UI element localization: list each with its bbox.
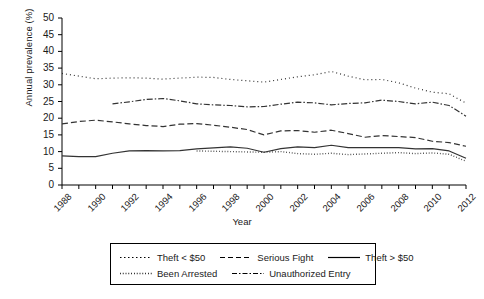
series-line bbox=[113, 98, 467, 116]
legend-key-dotted-fine-icon bbox=[119, 269, 153, 278]
legend-item[interactable]: Theft < $50 bbox=[119, 252, 205, 263]
chart-legend: Theft < $50Serious FightTheft > $50Been … bbox=[110, 243, 376, 285]
legend-key-dashed-icon bbox=[219, 253, 253, 262]
legend-key-dotted-coarse-icon bbox=[119, 253, 153, 262]
legend-key-solid-icon bbox=[327, 253, 361, 262]
legend-label: Serious Fight bbox=[257, 252, 313, 263]
legend-row: Been ArrestedUnauthorized Entry bbox=[119, 265, 367, 281]
legend-row: Theft < $50Serious FightTheft > $50 bbox=[119, 249, 367, 265]
legend-item[interactable]: Serious Fight bbox=[219, 252, 313, 263]
legend-label: Theft < $50 bbox=[157, 252, 205, 263]
legend-item[interactable]: Unauthorized Entry bbox=[231, 268, 350, 279]
legend-label: Unauthorized Entry bbox=[269, 268, 350, 279]
series-line bbox=[62, 120, 466, 146]
chart-figure: Annual prevalence (%) 504540353025201510… bbox=[0, 0, 484, 299]
series-line bbox=[62, 71, 466, 103]
legend-item[interactable]: Been Arrested bbox=[119, 268, 217, 279]
legend-item[interactable]: Theft > $50 bbox=[327, 252, 413, 263]
legend-label: Been Arrested bbox=[157, 268, 217, 279]
legend-label: Theft > $50 bbox=[365, 252, 413, 263]
series-line bbox=[197, 151, 466, 161]
legend-key-dash-dot-icon bbox=[231, 269, 265, 278]
